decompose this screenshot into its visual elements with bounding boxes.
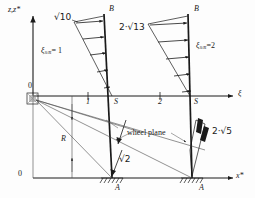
xi-value-right: =2: [206, 41, 215, 50]
xi-tick-S-left: S: [114, 98, 118, 106]
xi-tick-S-right: S: [194, 98, 198, 106]
diagram-canvas: z,z* ξ x* 0 0 1 S 2 S B B A A √10 2·√13 …: [0, 0, 255, 198]
label-2-sqrt13: 2·√13: [119, 23, 145, 32]
label-radius-R: R: [61, 135, 66, 143]
axis-label-vertical: z,z*: [8, 6, 20, 14]
node-A-right: A: [199, 184, 204, 192]
axis-label-xi: ξ: [238, 90, 241, 98]
force-vector-left-lower: [111, 120, 127, 176]
label-sqrt10: √10: [54, 13, 71, 22]
origin-label-lower: 0: [18, 170, 22, 178]
label-xi-sr-left: ξS/R= 1: [41, 47, 62, 55]
xi-tick-1: 1: [86, 98, 90, 106]
axis-xi: [33, 92, 233, 100]
node-B-left: B: [109, 5, 114, 13]
label-wheel-plane: wheel plane: [127, 129, 165, 137]
node-A-left: A: [115, 184, 120, 192]
label-sqrt2: √2: [119, 155, 130, 164]
origin-label-upper: 0: [28, 82, 32, 90]
xi-tick-2: 2: [158, 98, 162, 106]
label-xi-sr-right: ξS/R=2: [196, 42, 215, 50]
load-envelope-right: [148, 16, 190, 96]
load-arrows-right: [150, 23, 191, 92]
label-2-sqrt5: 2·√5: [212, 127, 232, 136]
node-B-right: B: [194, 5, 199, 13]
axis-label-x-star: x*: [236, 172, 244, 180]
force-vector-right-lower: [190, 118, 209, 176]
xi-value-left: = 1: [51, 46, 62, 55]
